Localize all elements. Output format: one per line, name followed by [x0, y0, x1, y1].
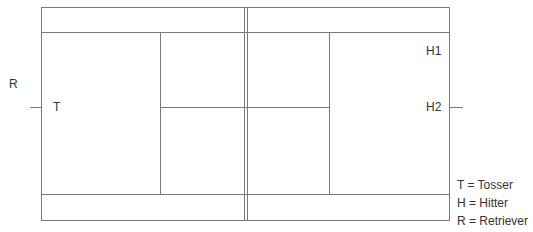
court-bottom-line: [41, 220, 450, 221]
bottom-singles-line: [41, 194, 450, 195]
court-top-line: [41, 7, 450, 8]
hitter2-tick: [450, 107, 463, 108]
label-r: R: [9, 78, 18, 90]
top-singles-line: [41, 32, 450, 33]
label-t: T: [53, 101, 60, 113]
legend: T = Tosser H = Hitter R = Retriever: [457, 179, 528, 227]
left-service-line: [160, 32, 161, 194]
label-h2: H2: [426, 101, 441, 113]
legend-item-hitter: H = Hitter: [457, 197, 528, 209]
court-right-line: [449, 7, 450, 221]
legend-item-retriever: R = Retriever: [457, 215, 528, 227]
net-line-b: [247, 7, 248, 221]
net-line-a: [244, 7, 245, 221]
label-h1: H1: [426, 45, 441, 57]
center-service-line: [160, 107, 330, 108]
legend-item-tosser: T = Tosser: [457, 179, 528, 191]
right-service-line: [329, 32, 330, 194]
court-left-line: [41, 7, 42, 221]
retriever-tick: [30, 107, 41, 108]
